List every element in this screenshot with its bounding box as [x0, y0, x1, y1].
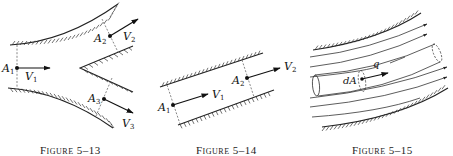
streamline	[310, 34, 427, 67]
wedge-divider	[80, 46, 133, 92]
label-q: q	[373, 58, 379, 69]
figure-5-15: q dA	[310, 11, 448, 132]
velocity-v3-arrow	[104, 99, 133, 113]
label-a1: A1	[1, 62, 14, 76]
label-da: dA	[343, 75, 357, 86]
label-a1: A1	[157, 101, 170, 115]
wedge-hatching	[84, 48, 132, 93]
label-a2: A2	[231, 74, 244, 88]
label-v1: V1	[212, 88, 224, 102]
velocity-v1-arrow	[173, 94, 208, 105]
lower-wall	[8, 88, 113, 128]
streamline	[390, 57, 405, 63]
caption-figure-5-14: Figure 5–14	[196, 144, 257, 156]
label-a2: A2	[93, 32, 106, 46]
caption-figure-5-15: Figure 5–15	[352, 144, 413, 156]
caption-figure-5-13: Figure 5–13	[40, 144, 101, 156]
upper-wall-hatching	[315, 11, 418, 50]
streamline	[310, 67, 447, 98]
stream-tube	[312, 43, 444, 96]
lower-wall-hatching	[180, 92, 270, 128]
figure-plate: A1 V1 A2 V2 A3 V3 A1 V1 A2 V2	[0, 0, 453, 156]
velocity-arrow	[362, 73, 388, 79]
label-v3: V3	[122, 117, 134, 131]
velocity-v2-arrow	[247, 68, 280, 78]
figure-5-13: A1 V1 A2 V2 A3 V3	[1, 3, 138, 132]
label-v1: V1	[25, 70, 37, 84]
label-v2: V2	[284, 60, 296, 74]
streamline	[310, 77, 447, 107]
lower-wall	[178, 90, 274, 125]
streamline	[310, 24, 427, 57]
label-v2: V2	[123, 30, 135, 44]
label-a3: A3	[87, 92, 100, 106]
figure-5-14: A1 V1 A2 V2	[157, 51, 296, 129]
upper-wall	[160, 53, 263, 87]
lower-wall-hatching	[10, 88, 114, 128]
